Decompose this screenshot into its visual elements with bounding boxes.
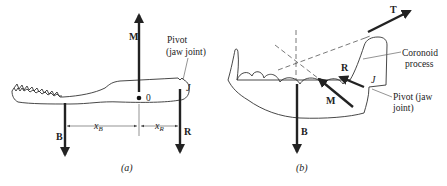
caption-a: (a): [121, 162, 133, 174]
jaw-force-diagram: M 0 B R J Pivot (jaw joint) xB xR (a): [0, 0, 447, 186]
construction-line-diag-2: [278, 38, 365, 70]
pivot-leader-a: [183, 58, 188, 80]
coronoid-label-line2: process: [405, 59, 434, 69]
force-r-label-b: R: [341, 62, 349, 73]
dimension-xr-label: xR: [154, 120, 164, 133]
reference-point-0: [137, 96, 142, 101]
force-r-arrow-b: [340, 77, 364, 87]
point-0-label: 0: [146, 93, 151, 103]
pivot-label-a-line2: (jaw joint): [166, 47, 206, 58]
coronoid-leader: [363, 52, 401, 59]
panel-a: M 0 B R J Pivot (jaw joint) xB xR (a): [12, 15, 206, 174]
panel-b: T M R B J Coronoid process Pivot (jaw jo…: [228, 4, 438, 174]
pivot-label-b-line2: joint): [392, 103, 414, 114]
construction-line-t: [365, 36, 370, 38]
force-b-label-b: B: [301, 126, 308, 137]
force-t-arrow-b: [368, 11, 410, 32]
force-t-label-b: T: [390, 4, 397, 15]
jaw-outline-b: [228, 37, 387, 118]
force-m-arrow-b: [319, 79, 353, 107]
force-m-label-a: M: [129, 31, 139, 42]
coronoid-label-line1: Coronoid: [402, 48, 438, 58]
construction-line-diag-1: [275, 45, 323, 82]
pivot-label-b-line1: Pivot (jaw: [393, 92, 432, 103]
force-r-label-a: R: [184, 126, 192, 137]
force-m-label-b: M: [326, 95, 336, 106]
pivot-label-a-line1: Pivot: [167, 35, 187, 45]
joint-j-label-a: J: [186, 82, 191, 93]
caption-b: (b): [296, 162, 308, 174]
dimension-xb-label: xB: [93, 120, 103, 133]
joint-j-label-b: J: [371, 74, 376, 85]
force-b-label-a: B: [56, 131, 63, 142]
pivot-leader-b: [372, 89, 392, 97]
teeth-b: [237, 72, 350, 84]
